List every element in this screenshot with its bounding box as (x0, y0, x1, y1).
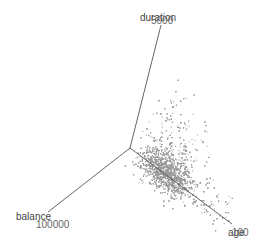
duration-tick-label: 5000 (151, 15, 174, 26)
scatter-3d-plot[interactable]: duration 5000 balance 100000 age 100 (0, 0, 258, 249)
age-axis (130, 148, 232, 224)
balance-tick-label: 100000 (36, 219, 70, 230)
balance-axis (48, 148, 130, 212)
duration-axis (130, 25, 161, 148)
age-tick-label: 100 (232, 227, 249, 238)
data-points (125, 80, 233, 231)
